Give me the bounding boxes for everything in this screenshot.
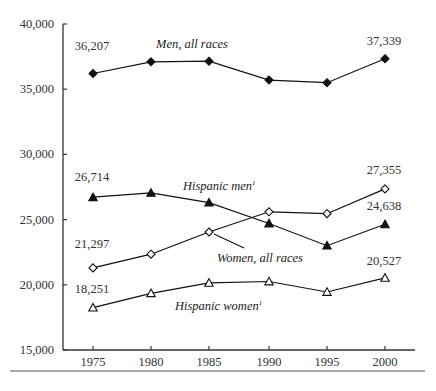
x-tick-label: 2000 bbox=[373, 355, 398, 369]
filled-diamond-marker bbox=[89, 69, 97, 77]
data-value-label: 20,527 bbox=[367, 254, 401, 268]
x-tick-label: 1995 bbox=[315, 355, 340, 369]
filled-triangle-marker bbox=[381, 220, 389, 228]
filled-diamond-marker bbox=[147, 58, 155, 66]
x-tick-label: 1990 bbox=[257, 355, 282, 369]
open-diamond-marker bbox=[323, 210, 331, 218]
axes: 15,00020,00025,00030,00035,00040,0001975… bbox=[20, 17, 415, 369]
filled-diamond-marker bbox=[323, 79, 331, 87]
x-tick-label: 1985 bbox=[197, 355, 222, 369]
x-tick-label: 1980 bbox=[139, 355, 164, 369]
open-triangle-marker bbox=[381, 274, 389, 282]
data-value-label: 18,251 bbox=[75, 282, 109, 296]
open-diamond-marker bbox=[147, 250, 155, 258]
series-men-all-races bbox=[89, 55, 389, 87]
data-value-label: 26,714 bbox=[75, 170, 110, 184]
data-value-label: 27,355 bbox=[367, 163, 401, 177]
filled-diamond-marker bbox=[205, 57, 213, 65]
line-chart: 15,00020,00025,00030,00035,00040,0001975… bbox=[0, 0, 436, 391]
open-diamond-marker bbox=[381, 185, 389, 193]
y-tick-label: 35,000 bbox=[20, 82, 54, 96]
y-tick-label: 40,000 bbox=[20, 17, 54, 31]
filled-diamond-marker bbox=[265, 76, 273, 84]
series-line bbox=[93, 59, 385, 83]
data-value-label: 24,638 bbox=[367, 199, 401, 213]
open-diamond-marker bbox=[265, 208, 273, 216]
open-diamond-marker bbox=[205, 228, 213, 236]
open-diamond-marker bbox=[89, 264, 97, 272]
series-hispanic-men bbox=[89, 189, 389, 249]
series-name-label: Hispanic men1 bbox=[182, 179, 256, 193]
x-tick-label: 1975 bbox=[81, 355, 106, 369]
labels-group: 36,20737,33926,71424,63821,29727,35518,2… bbox=[75, 34, 401, 313]
series-line bbox=[93, 193, 385, 246]
series-name-label: Men, all races bbox=[155, 37, 228, 51]
filled-triangle-marker bbox=[147, 189, 155, 197]
series-name-label: Women, all races bbox=[217, 251, 303, 265]
y-tick-label: 25,000 bbox=[20, 213, 54, 227]
series-name-label: Hispanic women1 bbox=[174, 299, 262, 313]
y-tick-label: 20,000 bbox=[20, 278, 54, 292]
filled-diamond-marker bbox=[381, 55, 389, 63]
filled-triangle-marker bbox=[323, 241, 331, 249]
data-value-label: 37,339 bbox=[367, 34, 401, 48]
data-value-label: 36,207 bbox=[75, 39, 109, 53]
label-leader-line bbox=[214, 234, 244, 248]
y-tick-label: 30,000 bbox=[20, 147, 54, 161]
data-value-label: 21,297 bbox=[75, 237, 109, 251]
y-tick-label: 15,000 bbox=[20, 343, 54, 357]
